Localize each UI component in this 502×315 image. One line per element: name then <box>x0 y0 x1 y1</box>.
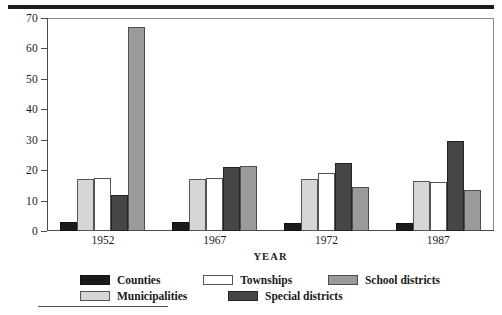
legend-item-counties: Counties <box>80 274 203 286</box>
legend-label-municipalities: Municipalities <box>117 290 187 302</box>
x-tick-label: 1952 <box>91 234 114 246</box>
bar <box>284 223 301 231</box>
bar <box>206 178 223 231</box>
bar <box>172 222 189 231</box>
bar <box>60 222 77 231</box>
bar <box>447 141 464 231</box>
y-tick <box>41 170 47 171</box>
y-tick <box>41 79 47 80</box>
y-tick <box>41 48 47 49</box>
bar-group <box>172 18 257 231</box>
black-swatch <box>80 275 110 285</box>
bar <box>413 181 430 231</box>
y-tick-label: 50 <box>26 73 38 85</box>
y-tick-label: 0 <box>32 225 38 237</box>
legend-label-townships: Townships <box>240 274 292 286</box>
bar <box>77 179 94 231</box>
bottom-rule <box>38 306 168 307</box>
x-tick-label: 1987 <box>427 234 450 246</box>
plot-area: 010203040506070 1952196719721987 YEAR <box>47 18 494 231</box>
white-swatch <box>203 275 233 285</box>
legend-item-townships: Townships <box>203 274 328 286</box>
y-tick <box>41 201 47 202</box>
figure: 010203040506070 1952196719721987 YEAR Co… <box>0 0 502 315</box>
bar <box>464 190 481 231</box>
bar <box>240 166 257 231</box>
bar <box>430 182 447 231</box>
x-axis-title: YEAR <box>47 251 494 262</box>
y-tick-label: 10 <box>26 195 38 207</box>
legend: Counties Townships School districts Muni… <box>80 274 440 306</box>
light-gray-swatch <box>80 291 110 301</box>
legend-item-school-districts: School districts <box>328 274 440 286</box>
y-tick-label: 70 <box>26 12 38 24</box>
y-tick <box>41 109 47 110</box>
bar <box>396 223 413 231</box>
bar <box>94 178 111 231</box>
bar-group <box>60 18 145 231</box>
bar <box>318 173 335 231</box>
bar <box>223 167 240 231</box>
bar <box>352 187 369 231</box>
legend-item-municipalities: Municipalities <box>80 290 228 302</box>
legend-label-counties: Counties <box>117 274 160 286</box>
bar <box>111 195 128 232</box>
legend-row: Counties Townships School districts <box>80 274 440 286</box>
bar-group <box>284 18 369 231</box>
y-axis <box>47 18 48 231</box>
bar <box>301 179 318 231</box>
top-rule <box>8 5 494 9</box>
y-tick-label: 40 <box>26 103 38 115</box>
bar <box>128 27 145 231</box>
y-tick <box>41 140 47 141</box>
legend-row: Municipalities Special districts <box>80 290 440 302</box>
y-tick-label: 30 <box>26 134 38 146</box>
plot-right-border <box>493 18 494 231</box>
y-tick-label: 20 <box>26 164 38 176</box>
y-tick <box>41 18 47 19</box>
legend-label-school-districts: School districts <box>365 274 440 286</box>
bar-group <box>396 18 481 231</box>
y-tick <box>41 231 47 232</box>
bar <box>335 163 352 231</box>
x-tick-label: 1972 <box>315 234 338 246</box>
bar <box>189 179 206 231</box>
medium-gray-swatch <box>328 275 358 285</box>
x-tick-label: 1967 <box>203 234 226 246</box>
legend-label-special-districts: Special districts <box>265 290 343 302</box>
y-tick-label: 60 <box>26 42 38 54</box>
dark-gray-swatch <box>228 291 258 301</box>
legend-item-special-districts: Special districts <box>228 290 378 302</box>
